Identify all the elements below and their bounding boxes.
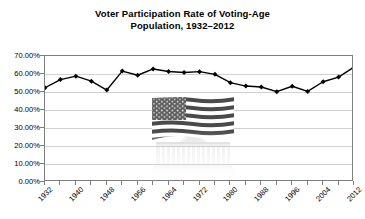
- y-axis-tick-label: 10.00%: [0, 159, 40, 168]
- data-point-marker: [135, 73, 140, 78]
- y-axis-tick-label: 30.00%: [0, 123, 40, 132]
- chart-title: Voter Participation Rate of Voting-Age P…: [0, 8, 365, 32]
- plot-area: [44, 55, 353, 181]
- data-point-marker: [274, 89, 279, 94]
- x-axis-tick-label: 1972: [176, 185, 209, 218]
- y-axis-tick-label: 20.00%: [0, 141, 40, 150]
- x-axis-tick-label: 1956: [114, 185, 147, 218]
- x-axis-tick-label: 1932: [21, 185, 54, 218]
- data-point-marker: [182, 70, 187, 75]
- y-axis: 70.00%60.00%50.00%40.00%30.00%20.00%10.0…: [0, 55, 40, 181]
- data-point-marker: [197, 69, 202, 74]
- y-axis-tick-label: 50.00%: [0, 87, 40, 96]
- data-point-marker: [58, 77, 63, 82]
- y-axis-tick-label: 40.00%: [0, 105, 40, 114]
- x-axis-tick-label: 1948: [83, 185, 116, 218]
- chart-title-line-1: Voter Participation Rate of Voting-Age: [0, 8, 365, 20]
- x-axis-labels: 1932194019481956196419721980198819962004…: [0, 185, 365, 219]
- y-axis-tick-label: 60.00%: [0, 69, 40, 78]
- data-point-marker: [228, 80, 233, 85]
- data-point-marker: [212, 72, 217, 77]
- x-axis-tick-label: 1964: [145, 185, 178, 218]
- x-axis-tick-label: 2012: [330, 185, 363, 218]
- data-point-marker: [243, 84, 248, 89]
- chart-title-line-2: Population, 1932–2012: [0, 20, 365, 32]
- data-series-voter-participation-rate: [45, 56, 353, 181]
- data-point-marker: [166, 69, 171, 74]
- data-point-marker: [259, 84, 264, 89]
- x-axis-tick-label: 1940: [52, 185, 85, 218]
- data-point-marker: [290, 84, 295, 89]
- x-axis-tick-label: 1988: [237, 185, 270, 218]
- voter-participation-chart: Voter Participation Rate of Voting-Age P…: [0, 0, 365, 219]
- x-axis-tick-label: 2004: [299, 185, 332, 218]
- data-point-marker: [73, 74, 78, 79]
- x-axis-tick-label: 1980: [207, 185, 240, 218]
- y-axis-tick-label: 70.00%: [0, 51, 40, 60]
- data-point-marker: [151, 66, 156, 71]
- x-axis-tick-label: 1996: [268, 185, 301, 218]
